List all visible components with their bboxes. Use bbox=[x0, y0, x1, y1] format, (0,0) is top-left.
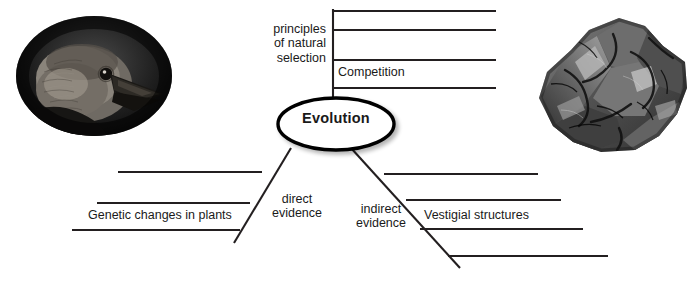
entry-genetic-changes-in-plants: Genetic changes in plants bbox=[88, 208, 232, 222]
branch-label-principles-of-natural-selection: principles of natural selection bbox=[250, 22, 326, 65]
branch-label-indirect-evidence: indirect evidence bbox=[350, 202, 412, 231]
entry-competition: Competition bbox=[338, 65, 405, 79]
concept-map-diagram: principles of natural selection Competit… bbox=[0, 0, 698, 283]
central-node-label-evolution: Evolution bbox=[282, 110, 390, 127]
entry-vestigial-structures: Vestigial structures bbox=[424, 208, 529, 222]
fossil-rock-photo bbox=[527, 10, 697, 160]
branch-label-direct-evidence: direct evidence bbox=[268, 192, 326, 221]
finch-head-photo bbox=[12, 12, 174, 140]
branch-direct-evidence bbox=[72, 148, 291, 243]
branch-principles-of-natural-selection bbox=[333, 9, 496, 112]
diagram-lines bbox=[0, 0, 698, 283]
